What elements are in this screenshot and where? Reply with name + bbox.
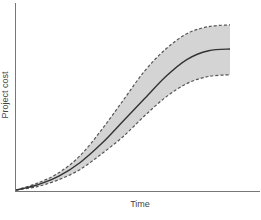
x-axis-label: Time: [130, 199, 150, 209]
plot-area: [16, 25, 230, 190]
y-axis-label: Project cost: [0, 71, 10, 119]
uncertainty-band: [16, 25, 230, 190]
s-curve-chart: Time Project cost: [0, 0, 261, 220]
